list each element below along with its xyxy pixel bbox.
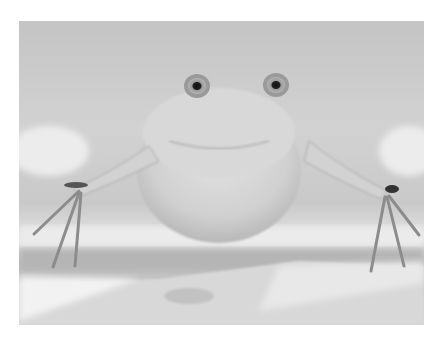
reflection — [164, 288, 214, 304]
frog-illustration — [19, 21, 424, 325]
frog-head — [143, 88, 295, 178]
right-wrist — [385, 185, 399, 193]
right-eye — [267, 77, 285, 93]
left-wrist — [64, 182, 88, 188]
frog-photo: Grayscale photograph of a pale frog faci… — [19, 21, 424, 325]
left-eye — [188, 78, 206, 94]
